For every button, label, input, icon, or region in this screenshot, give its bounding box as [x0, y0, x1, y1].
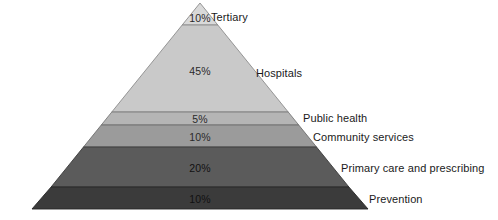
pyramid-band-public-health — [101, 112, 298, 125]
band-label-hospitals: Hospitals — [256, 68, 302, 79]
pyramid-graphic — [0, 0, 498, 220]
pyramid-band-prevention — [32, 187, 368, 209]
pyramid-band-primary-care — [51, 147, 349, 187]
pyramid-band-community-services — [84, 125, 317, 147]
band-label-community-services: Community services — [313, 132, 414, 143]
band-label-public-health: Public health — [303, 113, 367, 124]
band-label-primary-care: Primary care and prescribing — [341, 163, 484, 174]
band-label-tertiary: Tertiary — [211, 12, 248, 23]
pyramid-chart: 10% 45% 5% 10% 20% 10% Tertiary Hospital… — [0, 0, 498, 220]
band-label-prevention: Prevention — [369, 194, 423, 205]
